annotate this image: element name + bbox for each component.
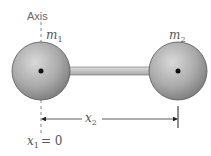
connecting-rod <box>66 67 152 75</box>
axis-label: Axis <box>27 10 48 22</box>
distance-label: x2 <box>85 111 97 127</box>
origin-label: x1= 0 <box>27 134 62 150</box>
two-mass-diagram: Axis m1 m2 x2 x1= 0 <box>0 0 211 156</box>
mass-1-center-dot <box>39 69 44 74</box>
mass-2-label: m2 <box>169 28 185 44</box>
mass-1-label: m1 <box>46 28 62 44</box>
mass-2-center-dot <box>176 69 181 74</box>
